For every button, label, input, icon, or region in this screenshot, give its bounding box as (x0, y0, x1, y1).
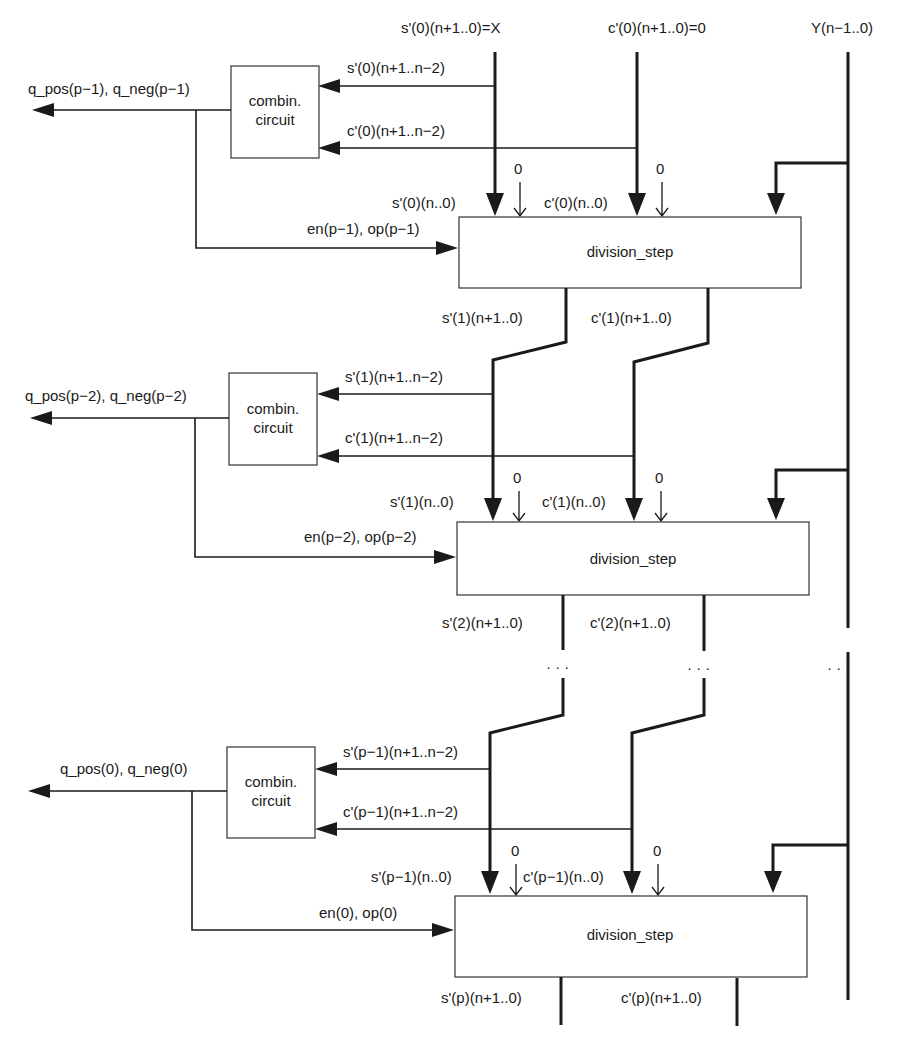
q-output-arrow (32, 103, 54, 117)
s-next-arrow (484, 498, 502, 521)
s-in-label: s'(0)(n..0) (392, 194, 456, 211)
s-msb-label: s'(p−1)(n+1..n−2) (343, 743, 458, 760)
combin-label-2: circuit (255, 111, 295, 128)
c-msb-arrow (317, 449, 339, 463)
q-output-label: q_pos(p−1), q_neg(p−1) (28, 80, 190, 97)
s-msb-arrow (317, 387, 339, 401)
control-arrow (436, 241, 458, 255)
combin-label-2: circuit (251, 792, 291, 809)
division-step-label: division_step (587, 926, 674, 943)
c-msb-label: c'(0)(n+1..n−2) (347, 122, 445, 139)
c-next-arrow (625, 498, 643, 521)
s-msb-label: s'(1)(n+1..n−2) (345, 368, 443, 385)
c-msb-label: c'(1)(n+1..n−2) (345, 429, 443, 446)
c-ellipsis: · · · (687, 659, 710, 676)
zero-s-label: 0 (511, 842, 519, 859)
srt-divider-diagram: s'(0)(n+1..0)=X c'(0)(n+1..0)=0 Y(n−1..0… (0, 0, 898, 1043)
c-msb-label: c'(p−1)(n+1..n−2) (343, 803, 458, 820)
c-msb-arrow (315, 822, 337, 836)
y-arrow-stage1 (767, 193, 785, 215)
combin-label-2: circuit (253, 419, 293, 436)
control-arrow (434, 550, 456, 564)
control-label: en(p−1), op(p−1) (307, 220, 420, 237)
s-out-label: s'(1)(n+1..0) (442, 309, 523, 326)
stage-3: s'(p−1)(n+1..n−2) c'(p−1)(n+1..n−2) comb… (28, 743, 807, 1026)
division-step-label: division_step (590, 550, 677, 567)
q-output-arrow (28, 784, 50, 798)
c-in-arrow (628, 193, 646, 216)
c-in-label: c'(1)(n..0) (542, 493, 606, 510)
zero-c-arrow (652, 864, 664, 895)
control-label: en(0), op(0) (319, 904, 397, 921)
s-msb-arrow (315, 762, 337, 776)
y-arrow-stage2 (767, 498, 785, 520)
c-initial-label: c'(0)(n+1..0)=0 (608, 19, 706, 36)
s-initial-label: s'(0)(n+1..0)=X (401, 19, 501, 36)
s-in-label: s'(p−1)(n..0) (371, 868, 452, 885)
zero-c-label: 0 (653, 842, 661, 859)
y-input-label: Y(n−1..0) (811, 19, 873, 36)
c-out-label: c'(1)(n+1..0) (591, 309, 672, 326)
zero-s-label: 0 (514, 160, 522, 177)
s-msb-label: s'(0)(n+1..n−2) (347, 59, 445, 76)
s-out-label: s'(p)(n+1..0) (441, 989, 522, 1006)
q-output-arrow (30, 411, 52, 425)
y-arrow-stage3 (764, 871, 782, 893)
c-out-label: c'(2)(n+1..0) (590, 614, 671, 631)
c-in-label: c'(0)(n..0) (544, 194, 608, 211)
combin-label-1: combin. (249, 92, 302, 109)
q-output-label: q_pos(0), q_neg(0) (60, 760, 188, 777)
s-msb-arrow (318, 79, 340, 93)
combin-label-1: combin. (247, 400, 300, 417)
s-in-label: s'(1)(n..0) (390, 493, 454, 510)
c-out-label: c'(p)(n+1..0) (621, 989, 702, 1006)
c-next-arrow (623, 871, 641, 894)
stage-1: s'(0)(n+1..n−2) c'(0)(n+1..n−2) combin. … (28, 52, 801, 521)
zero-s-label: 0 (513, 469, 521, 486)
s-next-arrow (481, 871, 499, 894)
division-step-label: division_step (587, 243, 674, 260)
control-arrow (432, 923, 454, 937)
zero-s-arrow (510, 864, 522, 895)
zero-c-label: 0 (655, 469, 663, 486)
s-in-arrow (486, 193, 504, 216)
zero-c-label: 0 (656, 160, 664, 177)
combin-label-1: combin. (245, 773, 298, 790)
s-out-label: s'(2)(n+1..0) (442, 614, 523, 631)
zero-c-arrow (655, 491, 667, 521)
q-output-label: q_pos(p−2), q_neg(p−2) (25, 387, 187, 404)
zero-c-arrow (656, 182, 668, 216)
c-msb-arrow (318, 141, 340, 155)
control-label: en(p−2), op(p−2) (304, 528, 417, 545)
y-ellipsis: · · · (827, 659, 850, 676)
s-ellipsis: · · · (546, 658, 569, 675)
c-in-label: c'(p−1)(n..0) (523, 868, 604, 885)
zero-s-arrow (514, 182, 526, 216)
zero-s-arrow (513, 491, 525, 521)
